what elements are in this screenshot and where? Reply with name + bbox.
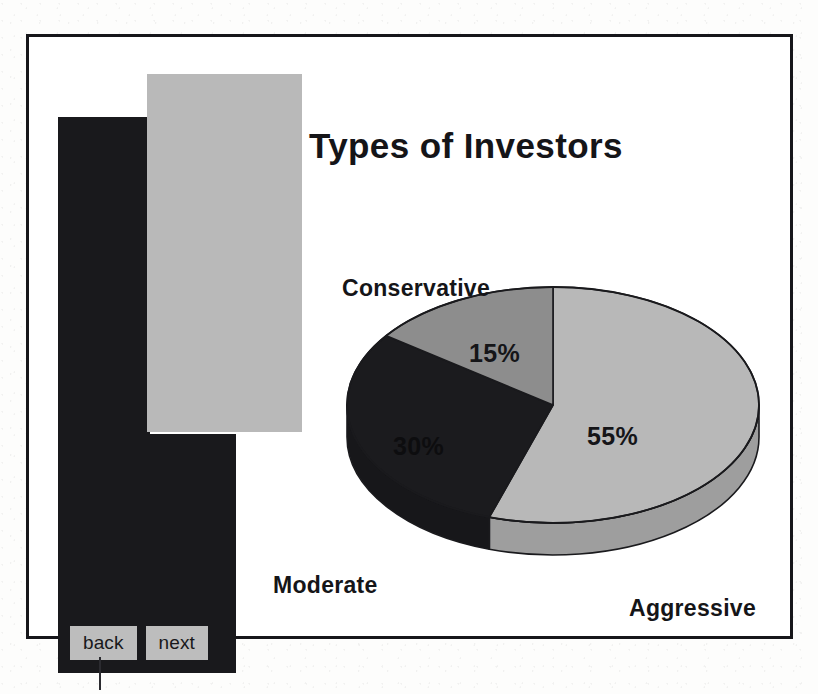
slide-navigation: back next (70, 626, 208, 660)
scanned-page: back next Types of Investors 55% 30% 15%… (0, 0, 818, 694)
category-label-moderate: Moderate (273, 572, 378, 599)
pie-geometry (347, 287, 759, 555)
slide-title: Types of Investors (309, 126, 623, 166)
next-button[interactable]: next (146, 626, 208, 660)
left-black-panel-upper (58, 117, 150, 434)
slice-value-conservative: 15% (469, 339, 520, 368)
slice-value-moderate: 30% (393, 432, 444, 461)
back-button[interactable]: back (70, 626, 137, 660)
category-label-aggressive: Aggressive (629, 595, 756, 622)
category-label-conservative: Conservative (342, 275, 490, 302)
slice-value-aggressive: 55% (587, 422, 638, 451)
page-tick-mark (99, 657, 101, 690)
left-gray-panel (147, 74, 302, 432)
presentation-slide: back next Types of Investors 55% 30% 15%… (26, 34, 793, 639)
pie-chart: 55% 30% 15% Conservative Moderate Aggres… (329, 267, 799, 627)
